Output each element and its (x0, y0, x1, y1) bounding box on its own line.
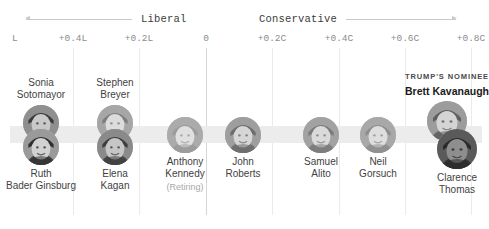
justice-name-kennedy: AnthonyKennedy(Retiring) (165, 156, 204, 193)
portrait-kennedy[interactable] (167, 117, 203, 153)
justice-name-kavanaugh: Brett Kavanaugh (405, 85, 489, 98)
arrow-left-icon (25, 16, 30, 20)
justice-name-line: Brett Kavanaugh (405, 85, 489, 98)
justice-name-sotomayor: SoniaSotomayor (17, 77, 65, 102)
justice-name-line: Sonia (17, 77, 65, 90)
justice-name-line: Stephen (96, 77, 133, 90)
justice-name-breyer: StephenBreyer (96, 77, 133, 102)
tick-label-3: 0 (203, 33, 209, 44)
tick-label-1: +0.4L (59, 33, 88, 44)
portrait-gorsuch[interactable] (360, 117, 396, 153)
justice-name-line: Thomas (437, 184, 477, 197)
justice-name-thomas: ClarenceThomas (437, 172, 477, 197)
justice-name-line: Gorsuch (359, 168, 397, 181)
justice-name-line: Alito (304, 168, 338, 181)
liberal-arrow-line (26, 19, 132, 20)
conservative-direction-label: Conservative (259, 13, 337, 25)
nominee-eyebrow-kavanaugh: TRUMP'S NOMINEE (405, 72, 489, 81)
justice-name-gorsuch: NeilGorsuch (359, 156, 397, 181)
axis-tick-labels: L+0.4L+0.2L0+0.2C+0.4C+0.6C+0.8C (0, 33, 482, 47)
axis-direction-header: Liberal Conservative (0, 11, 482, 27)
justice-name-line: Breyer (96, 89, 133, 102)
conservative-direction-group: Conservative (259, 11, 456, 27)
justice-name-alito: SamuelAlito (304, 156, 338, 181)
liberal-direction-label: Liberal (141, 13, 187, 25)
portrait-alito[interactable] (303, 117, 339, 153)
justice-name-roberts: JohnRoberts (225, 156, 260, 181)
justice-name-line: Anthony (165, 156, 204, 169)
justice-name-line: Roberts (225, 168, 260, 181)
justice-name-ginsburg: RuthBader Ginsburg (6, 168, 76, 193)
tick-label-2: +0.2L (125, 33, 154, 44)
justice-name-line: Kagan (101, 180, 130, 193)
arrow-right-icon (452, 16, 457, 20)
portrait-kagan[interactable] (97, 129, 133, 165)
tick-label-4: +0.2C (258, 33, 287, 44)
justice-name-kagan: ElenaKagan (101, 168, 130, 193)
tick-label-5: +0.4C (325, 33, 354, 44)
justice-name-line: Clarence (437, 172, 477, 185)
tick-label-7: +0.8C (457, 33, 486, 44)
justice-name-line: Sotomayor (17, 89, 65, 102)
tick-label-6: +0.6C (391, 33, 420, 44)
justice-name-line: Elena (101, 168, 130, 181)
portrait-ginsburg[interactable] (23, 129, 59, 165)
justice-name-line: Kennedy (165, 168, 204, 181)
portrait-roberts[interactable] (225, 117, 261, 153)
justice-name-line: Bader Ginsburg (6, 180, 76, 193)
conservative-arrow-line (346, 19, 456, 20)
liberal-direction-group: Liberal (26, 11, 187, 27)
portrait-thomas[interactable] (437, 129, 477, 169)
justice-name-line: Samuel (304, 156, 338, 169)
justice-name-sub: (Retiring) (165, 181, 204, 193)
justice-name-line: Ruth (6, 168, 76, 181)
justice-name-line: Neil (359, 156, 397, 169)
justice-name-line: John (225, 156, 260, 169)
tick-label-0: L (12, 33, 18, 44)
